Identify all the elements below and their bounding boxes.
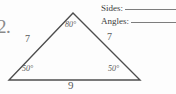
angle-label-apex: 80° xyxy=(65,20,76,29)
side-label-base: 9 xyxy=(68,79,74,91)
side-label-right: 7 xyxy=(107,31,112,42)
isosceles-triangle-icon xyxy=(0,0,176,94)
worksheet-page: 2. Sides: Angles: 7 7 9 80° 50° 50° xyxy=(0,0,176,94)
angle-label-bottom-left: 50° xyxy=(22,64,33,73)
side-label-left: 7 xyxy=(25,33,30,44)
angle-label-bottom-right: 50° xyxy=(108,64,119,73)
triangle-figure: 7 7 9 80° 50° 50° xyxy=(0,0,176,94)
